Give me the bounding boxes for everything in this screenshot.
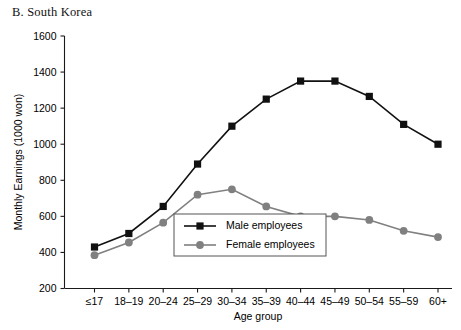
legend-label: Male employees [226,219,302,231]
data-point [160,203,167,210]
y-tick-label: 1200 [33,102,57,114]
y-axis-ticks: 2004006008001000120014001600 [33,30,64,295]
x-tick-label: 50–54 [355,295,384,307]
data-point [91,243,98,250]
data-point [194,191,202,199]
data-point [228,123,235,130]
data-point [331,212,339,220]
data-point [366,93,373,100]
data-point [434,141,441,148]
data-point [262,203,270,211]
data-point [91,251,99,259]
y-tick-label: 400 [39,246,57,258]
y-tick-label: 1600 [33,30,57,42]
data-point [263,96,270,103]
figure-panel: B. South Korea 2004006008001000120014001… [0,0,461,330]
legend-marker [196,241,204,249]
x-axis-ticks: ≤1718–1920–2425–2930–3435–3940–4445–4950… [86,289,447,307]
chart-legend: Male employeesFemale employees [174,214,326,256]
y-tick-label: 1000 [33,138,57,150]
data-point [297,77,304,84]
data-point [434,233,442,241]
x-tick-label: 30–34 [217,295,246,307]
legend-label: Female employees [226,238,315,250]
y-tick-label: 1400 [33,66,57,78]
data-point [365,216,373,224]
x-tick-label: 18–19 [114,295,143,307]
x-tick-label: 40–44 [286,295,315,307]
data-point [331,77,338,84]
x-axis-title: Age group [234,310,283,322]
y-tick-label: 800 [39,174,57,186]
x-tick-label: 25–29 [183,295,212,307]
data-point [125,239,133,247]
data-point [400,121,407,128]
y-tick-label: 200 [39,282,57,294]
x-tick-label: 45–49 [320,295,349,307]
data-point [125,230,132,237]
y-axis-title: Monthly Earnings (1000 won) [12,94,24,231]
y-tick-label: 600 [39,210,57,222]
x-tick-label: ≤17 [86,295,104,307]
x-tick-label: 35–39 [252,295,281,307]
line-chart: 2004006008001000120014001600 ≤1718–1920–… [0,0,461,330]
data-point [194,160,201,167]
x-tick-label: 55–59 [389,295,418,307]
legend-marker [196,222,203,229]
data-point [159,219,167,227]
x-tick-label: 60+ [429,295,447,307]
data-point [400,227,408,235]
x-tick-label: 20–24 [149,295,178,307]
data-point [228,185,236,193]
